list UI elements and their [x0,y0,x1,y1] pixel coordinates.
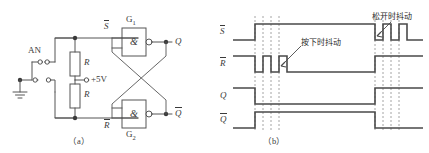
wire-r-branch [55,92,138,118]
release-bounce-note: 松开时抖动 [372,10,412,21]
wire-cross-qbar-to-g1 [112,38,166,114]
switch-fixed-lower-a-icon [33,78,37,82]
gate-g1-symbol: & [130,36,138,47]
resistor-bottom [70,84,80,108]
junction-dot-bottom [73,116,77,120]
timing-panel: S R Q Q 按下时抖动 松开时抖动 （b） [215,0,429,153]
gate-g2-bubble-icon [146,111,152,117]
gate-g2-symbol: & [130,108,138,119]
guide-lines-left [255,16,279,132]
resistor-top [70,52,80,76]
resistor-bottom-label: R [84,89,90,99]
switch-contact-a-icon [38,60,42,64]
switch-label: AN [28,45,41,55]
output-qbar-label: Q [175,108,182,118]
supply-terminal-icon [84,78,88,82]
timing-label-r-bar: R [220,58,226,68]
caption-a: （a） [68,134,90,146]
guide-lines-right [375,16,399,132]
wire-cross-q-to-g2 [112,42,166,118]
supply-label: +5V [91,74,107,84]
timing-label-s-bar: S [220,26,225,36]
gate-g2-sub: 2 [133,134,136,141]
wire-lowerb-to-rbranch [51,80,55,92]
waveform-q-bar [233,112,423,128]
timing-svg [215,0,429,153]
switch-fixed-lower-b-icon [46,78,50,82]
timing-label-q-bar: Q [220,114,227,124]
circuit-panel: AN R R +5V S R G1 G2 & & Q Q （a） [0,0,215,153]
waveform-r-bar [233,56,423,72]
node-s-label: S [104,21,109,31]
figure-root: AN R R +5V S R G1 G2 & & Q Q （a） [0,0,429,153]
waveform-q [233,88,423,104]
gate-g1-bubble-icon [146,39,152,45]
release-bounce-arrowhead [377,32,382,37]
timing-label-q: Q [220,90,227,100]
output-q-label: Q [175,36,182,46]
caption-b: （b） [263,134,285,146]
junction-dot-top [73,36,77,40]
wire-s-branch [55,38,138,62]
node-r-label: R [104,120,110,130]
switch-contact-b-icon [45,60,49,64]
gate-g1-sub: 1 [133,19,136,26]
resistor-top-label: R [84,57,90,67]
press-bounce-arrowhead [281,62,286,67]
press-bounce-note: 按下时抖动 [301,36,341,47]
